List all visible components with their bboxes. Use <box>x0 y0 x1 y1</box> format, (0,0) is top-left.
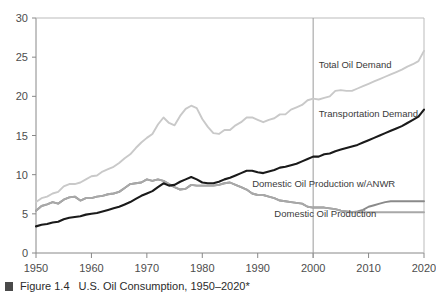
x-axis-tick-label: 1950 <box>24 262 48 274</box>
y-axis-tick-label: 10 <box>16 169 28 181</box>
chart-plot-area: 051015202530 195019601970198019902000201… <box>0 0 436 274</box>
series-annotation-label: Domestic Oil Production <box>274 208 376 219</box>
caption-square-bullet-icon <box>5 282 13 291</box>
y-axis-tick-label: 20 <box>16 90 28 102</box>
y-axis-tick-label: 5 <box>22 208 28 220</box>
data-series <box>36 51 424 226</box>
oil-consumption-line-chart: 051015202530 195019601970198019902000201… <box>0 0 436 274</box>
y-axis-tick-label: 15 <box>16 130 28 142</box>
y-axis-tick-label: 0 <box>22 247 28 259</box>
x-axis-tick-label: 1960 <box>79 262 103 274</box>
y-axis-tick-label: 25 <box>16 51 28 63</box>
x-axis-tick-label: 2020 <box>412 262 436 274</box>
x-axis-tick-label: 1980 <box>190 262 214 274</box>
figure-container: 051015202530 195019601970198019902000201… <box>0 0 436 296</box>
caption-title-text: U.S. Oil Consumption, 1950–2020* <box>79 280 250 292</box>
series-annotation-label: Domestic Oil Production w/ANWR <box>252 178 395 189</box>
x-axis-ticks: 19501960197019801990200020102020 <box>24 253 436 274</box>
series-annotation-label: Total Oil Demand <box>319 59 392 70</box>
y-axis-tick-label: 30 <box>16 12 28 24</box>
series-annotation-label: Transportation Demand <box>319 108 418 119</box>
x-axis-tick-label: 2010 <box>356 262 380 274</box>
x-axis-tick-label: 1990 <box>245 262 269 274</box>
x-axis-tick-label: 1970 <box>135 262 159 274</box>
y-axis-ticks: 051015202530 <box>16 12 36 259</box>
x-axis-tick-label: 2000 <box>301 262 325 274</box>
figure-caption: Figure 1.4 U.S. Oil Consumption, 1950–20… <box>0 276 436 296</box>
series-labels: Total Oil DemandTransportation DemandDom… <box>252 59 418 219</box>
caption-figure-number: Figure 1.4 <box>20 280 70 292</box>
